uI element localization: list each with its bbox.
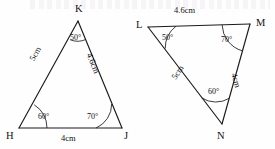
side-label-hj: 4cm [61, 134, 76, 143]
angle-label-k: 50° [70, 34, 81, 42]
side-kj [78, 21, 122, 128]
side-label-lm: 4.6cm [174, 6, 195, 15]
diagram-canvas: K H J 5cm 4.6cm 4cm 50° 60° 70° L M N 4.… [0, 0, 275, 149]
vertex-label-n: N [217, 131, 225, 142]
vertex-label-k: K [75, 4, 83, 15]
angle-label-h: 60° [38, 113, 49, 121]
vertex-label-j: J [124, 131, 128, 142]
side-lm [148, 24, 250, 27]
vertex-label-h: H [6, 131, 14, 142]
angle-arc-n [202, 98, 230, 102]
side-ln [148, 27, 222, 124]
vertex-label-l: L [136, 20, 142, 31]
vertex-label-m: M [256, 18, 265, 29]
angle-arc-j [96, 104, 112, 128]
angle-label-m: 70° [221, 36, 232, 44]
angle-label-j: 70° [87, 113, 98, 121]
angle-label-l: 50° [162, 34, 173, 42]
angle-label-n: 60° [208, 88, 219, 96]
